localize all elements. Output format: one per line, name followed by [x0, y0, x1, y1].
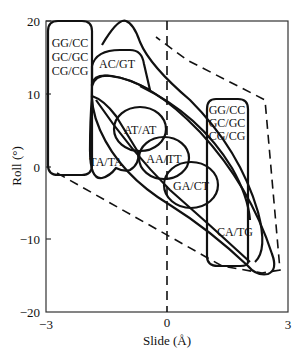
x-axis-label: Slide (Å) [143, 333, 191, 348]
label-gg-cc-right-1: GG/CC [209, 103, 246, 117]
label-aa-tt: AA/TT [146, 152, 182, 166]
x-tick-minus-3: −3 [39, 317, 53, 332]
y-axis: 20 10 0 −10 −20 Roll (°) [9, 14, 51, 320]
y-tick-minus-10: −10 [20, 232, 40, 247]
slide-roll-chart: 20 10 0 −10 −20 Roll (°) −3 0 3 Slide (Å… [0, 0, 303, 360]
label-cg-cg-right: CG/CG [209, 129, 246, 143]
y-axis-label: Roll (°) [9, 146, 24, 186]
label-gg-cc-left-1: GG/CC [52, 36, 89, 50]
y-tick-minus-20: −20 [20, 305, 40, 320]
label-cg-cg-left: CG/CG [52, 64, 89, 78]
label-gc-gc-right: GC/GC [209, 116, 246, 130]
label-ca-tg: CA/TG [217, 225, 253, 239]
label-ga-ct: GA/CT [173, 179, 210, 193]
y-tick-20: 20 [27, 14, 40, 29]
label-ac-gt: AC/GT [99, 57, 136, 71]
label-at-at: AT/AT [124, 123, 157, 137]
y-tick-10: 10 [27, 87, 40, 102]
y-tick-0: 0 [34, 160, 41, 175]
x-tick-3: 3 [285, 317, 292, 332]
x-tick-0: 0 [164, 315, 171, 330]
label-ta-ta: TA/TA [89, 155, 123, 169]
x-axis: −3 0 3 Slide (Å) [39, 315, 291, 348]
label-gc-gc-left: GC/GC [52, 50, 89, 64]
